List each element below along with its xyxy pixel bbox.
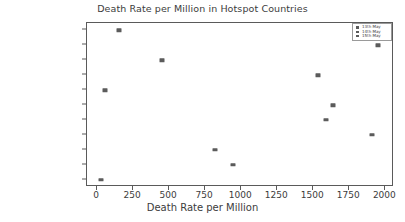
data-point [369,133,374,137]
data-point [99,178,104,182]
x-axis-tick-label: 0 [93,190,99,200]
x-axis-tick-label: 250 [124,190,141,200]
legend-marker-icon [354,26,361,29]
legend-item-label: 15th May [362,34,381,38]
data-point [315,73,320,77]
x-axis-tick-label: 500 [160,190,177,200]
chart-figure: Death Rate per Million in Hotspot Countr… [0,0,405,222]
data-point [376,44,381,48]
data-point [323,118,328,122]
data-point [231,163,236,167]
data-point [331,103,336,107]
x-axis-tick-label: 750 [196,190,213,200]
x-axis-tick-label: 1000 [229,190,252,200]
data-point [103,88,108,92]
data-point [213,148,218,152]
x-axis-tick-label: 1500 [301,190,324,200]
x-axis-tick-label: 2000 [373,190,396,200]
data-point [116,29,121,33]
x-axis-tick-label: 1250 [265,190,288,200]
legend-item: 15th May [354,34,389,38]
data-point [159,59,164,63]
legend-marker-icon [354,30,361,33]
chart-legend: 13th May14th May15th May [352,23,392,41]
plot-area [86,22,393,186]
x-axis-label: Death Rate per Million [0,202,405,213]
x-axis-tick-label: 1750 [337,190,360,200]
legend-marker-icon [354,35,361,38]
chart-title: Death Rate per Million in Hotspot Countr… [0,3,405,14]
